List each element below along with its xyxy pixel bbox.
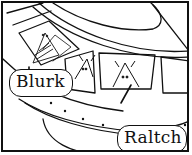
middle-alien-figure: [75, 55, 95, 79]
raltch-alien-figure: [113, 61, 139, 87]
blurk-label: Blurk: [9, 69, 73, 97]
illustration-frame: Blurk Raltch: [1, 1, 189, 152]
raltch-label: Raltch: [117, 125, 187, 152]
